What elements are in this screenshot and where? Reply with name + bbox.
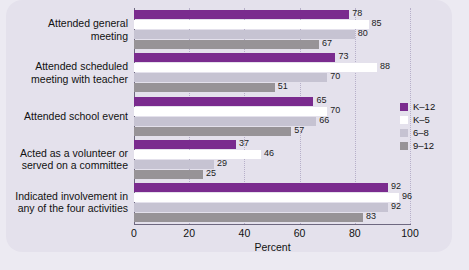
- bar-row: 83: [134, 213, 410, 222]
- legend-label: K–12: [413, 101, 435, 112]
- legend-swatch: [400, 103, 408, 111]
- x-axis-line: [134, 224, 411, 225]
- bar[interactable]: [134, 40, 319, 49]
- bar-value-label: 70: [330, 105, 340, 115]
- bar[interactable]: [134, 117, 316, 126]
- x-tick-label: 0: [131, 227, 137, 239]
- bar-group: 73887051: [134, 53, 410, 93]
- bar-value-label: 37: [239, 138, 249, 148]
- bar-row: 29: [134, 160, 410, 169]
- category-label-line: any of the four activities: [10, 202, 128, 215]
- bar[interactable]: [134, 140, 236, 149]
- bar[interactable]: [134, 97, 313, 106]
- bar-row: 67: [134, 40, 410, 49]
- legend-swatch: [400, 129, 408, 137]
- bar-row: 73: [134, 53, 410, 62]
- bar[interactable]: [134, 83, 275, 92]
- bar-value-label: 66: [319, 115, 329, 125]
- bar-row: 88: [134, 63, 410, 72]
- bar-row: 57: [134, 127, 410, 136]
- category-label: Attended generalmeeting: [10, 17, 128, 42]
- bar-value-label: 70: [330, 71, 340, 81]
- bar-row: 46: [134, 150, 410, 159]
- legend-item[interactable]: 9–12: [400, 140, 456, 151]
- bar-group: 37462925: [134, 140, 410, 180]
- bar-row: 66: [134, 117, 410, 126]
- bar-value-label: 67: [322, 38, 332, 48]
- x-tick-label: 60: [294, 227, 306, 239]
- bar-value-label: 73: [338, 51, 348, 61]
- bar-row: 78: [134, 10, 410, 19]
- category-label: Attended scheduledmeeting with teacher: [10, 60, 128, 85]
- legend-item[interactable]: K–12: [400, 101, 456, 112]
- bar[interactable]: [134, 127, 291, 136]
- category-label-line: Acted as a volunteer or: [10, 147, 128, 160]
- bar[interactable]: [134, 183, 388, 192]
- bar[interactable]: [134, 193, 399, 202]
- bar-row: 65: [134, 97, 410, 106]
- bar-value-label: 92: [391, 181, 401, 191]
- plot-area: 7885806773887051657066573746292592969283: [134, 8, 410, 224]
- bar[interactable]: [134, 73, 327, 82]
- category-label-line: Attended school event: [10, 110, 128, 123]
- bar-group: 78858067: [134, 10, 410, 50]
- chart-panel: Attended generalmeetingAttended schedule…: [6, 0, 452, 252]
- bar-value-label: 78: [352, 8, 362, 18]
- bar[interactable]: [134, 63, 377, 72]
- bar-value-label: 96: [402, 191, 412, 201]
- bar[interactable]: [134, 203, 388, 212]
- x-tick-label: 80: [349, 227, 361, 239]
- bar-value-label: 92: [391, 201, 401, 211]
- category-label: Acted as a volunteer orserved on a commi…: [10, 147, 128, 172]
- bar-value-label: 88: [380, 61, 390, 71]
- category-label-line: Attended general: [10, 17, 128, 30]
- legend-swatch: [400, 142, 408, 150]
- bar[interactable]: [134, 10, 349, 19]
- category-label: Indicated involvement inany of the four …: [10, 190, 128, 215]
- page-bleed-band: [0, 254, 469, 270]
- category-label-line: Attended scheduled: [10, 60, 128, 73]
- bar-row: 70: [134, 107, 410, 116]
- bar-value-label: 29: [217, 158, 227, 168]
- category-label: Attended school event: [10, 110, 128, 123]
- bar-row: 70: [134, 73, 410, 82]
- bar-row: 51: [134, 83, 410, 92]
- bar[interactable]: [134, 107, 327, 116]
- category-label-line: meeting: [10, 30, 128, 43]
- bar-value-label: 46: [264, 148, 274, 158]
- legend: K–12K–56–89–12: [400, 101, 456, 153]
- bar[interactable]: [134, 20, 369, 29]
- category-axis-labels: Attended generalmeetingAttended schedule…: [6, 8, 128, 224]
- legend-swatch: [400, 116, 408, 124]
- bar-row: 80: [134, 30, 410, 39]
- category-label-line: served on a committee: [10, 159, 128, 172]
- x-tick-label: 20: [183, 227, 195, 239]
- bar-group: 65706657: [134, 97, 410, 137]
- category-label-line: meeting with teacher: [10, 73, 128, 86]
- category-label-line: Indicated involvement in: [10, 190, 128, 203]
- bar[interactable]: [134, 170, 203, 179]
- legend-item[interactable]: 6–8: [400, 127, 456, 138]
- bar[interactable]: [134, 150, 261, 159]
- bar-value-label: 85: [372, 18, 382, 28]
- bar-row: 25: [134, 170, 410, 179]
- x-tick-label: 40: [239, 227, 251, 239]
- bar-value-label: 57: [294, 125, 304, 135]
- bar[interactable]: [134, 53, 335, 62]
- bar[interactable]: [134, 213, 363, 222]
- bar-value-label: 65: [316, 95, 326, 105]
- bar-value-label: 51: [278, 81, 288, 91]
- bar-row: 85: [134, 20, 410, 29]
- bar-value-label: 25: [206, 168, 216, 178]
- bar-row: 92: [134, 183, 410, 192]
- x-tick-label: 100: [401, 227, 419, 239]
- bar-value-label: 80: [358, 28, 368, 38]
- legend-label: K–5: [413, 114, 430, 125]
- bar-group: 92969283: [134, 183, 410, 223]
- legend-label: 6–8: [413, 127, 429, 138]
- bar[interactable]: [134, 160, 214, 169]
- legend-item[interactable]: K–5: [400, 114, 456, 125]
- bar-value-label: 83: [366, 211, 376, 221]
- bar-row: 96: [134, 193, 410, 202]
- legend-label: 9–12: [413, 140, 434, 151]
